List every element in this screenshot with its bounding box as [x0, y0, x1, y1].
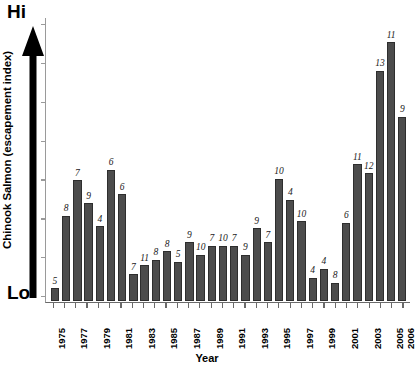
y-axis-title: Chinook Salmon (escapement index)	[0, 0, 18, 300]
bar-slot: 13	[374, 18, 385, 301]
bar	[118, 194, 126, 300]
y-axis-tick	[41, 257, 46, 258]
x-axis-tick	[154, 303, 155, 308]
bar-slot: 4	[285, 18, 296, 301]
x-axis-tick	[290, 303, 291, 308]
x-axis-year-label: 1997	[305, 328, 315, 349]
bar-value-label: 4	[97, 215, 102, 225]
bar	[129, 274, 137, 301]
x-axis-tick	[267, 303, 268, 308]
bar	[96, 226, 104, 300]
x-axis-year-label: 2005	[395, 328, 405, 349]
x-axis-year-label: 1981	[124, 328, 134, 349]
bar-slot: 10	[296, 18, 307, 301]
x-axis-tick	[369, 303, 370, 308]
bar-value-label: 10	[297, 210, 307, 220]
bar-value-label: 10	[218, 234, 228, 244]
bar	[219, 246, 227, 301]
bar-slot: 9	[83, 18, 94, 301]
bar-slot: 9	[240, 18, 251, 301]
bar	[73, 180, 81, 300]
bar	[51, 288, 59, 300]
x-axis-tick	[312, 303, 313, 308]
bar-value-label: 9	[86, 192, 91, 202]
bar-slot: 5	[49, 18, 60, 301]
x-axis-tick	[256, 303, 257, 308]
x-axis-year-label: 1975	[57, 328, 67, 349]
bar	[208, 246, 216, 301]
x-axis-year-label: 1983	[147, 328, 157, 349]
x-axis-year-label: 1999	[327, 328, 337, 349]
bar	[152, 260, 160, 301]
bar	[320, 269, 328, 301]
bar	[353, 164, 361, 300]
bar-value-label: 8	[64, 204, 69, 214]
x-axis-year-label: 1989	[215, 328, 225, 349]
bar-slot: 4	[318, 18, 329, 301]
bar-slot: 9	[184, 18, 195, 301]
bar-value-label: 13	[375, 59, 385, 69]
bar-value-label: 8	[153, 248, 158, 258]
x-axis-year-label: 1985	[169, 328, 179, 349]
bar-value-label: 9	[243, 243, 248, 253]
bar-slot: 4	[94, 18, 105, 301]
x-axis-tick	[64, 303, 65, 308]
x-axis-tick	[278, 303, 279, 308]
bar-value-label: 4	[321, 257, 326, 267]
x-axis-tick	[86, 303, 87, 308]
bar	[185, 242, 193, 300]
x-axis-year-label: 1979	[102, 328, 112, 349]
x-axis-tick	[75, 303, 76, 308]
x-axis-tick	[177, 303, 178, 308]
x-axis-year-label: 1995	[282, 328, 292, 349]
bar-value-label: 7	[75, 169, 80, 179]
x-axis-tick	[346, 303, 347, 308]
x-axis-tick	[380, 303, 381, 308]
bar	[342, 223, 350, 301]
x-axis-tick	[222, 303, 223, 308]
bar-slot: 7	[262, 18, 273, 301]
x-axis-tick	[132, 303, 133, 308]
bar	[62, 216, 70, 301]
bar-slot: 6	[341, 18, 352, 301]
x-axis-tick	[188, 303, 189, 308]
x-axis-title: Year	[0, 352, 414, 364]
bar	[309, 278, 317, 301]
x-axis-year-label: 1991	[237, 328, 247, 349]
bar-series: 5879466711885910710799710410448611121311…	[47, 18, 410, 301]
x-axis-year-label: 1977	[79, 328, 89, 349]
x-axis-tick	[323, 303, 324, 308]
bar-value-label: 5	[53, 277, 58, 287]
bar-value-label: 11	[353, 153, 362, 163]
x-axis-tick	[391, 303, 392, 308]
y-axis-tick	[41, 24, 46, 25]
x-axis-tick	[109, 303, 110, 308]
bar-value-label: 9	[400, 105, 405, 115]
x-axis-tick	[143, 303, 144, 308]
x-axis-tick	[357, 303, 358, 308]
bar-value-label: 7	[265, 231, 270, 241]
bar-slot: 5	[173, 18, 184, 301]
bar-slot: 8	[150, 18, 161, 301]
x-axis-tick	[53, 303, 54, 308]
x-axis-tick	[301, 303, 302, 308]
bar-slot: 8	[61, 18, 72, 301]
x-axis-tick	[199, 303, 200, 308]
bar-value-label: 8	[333, 271, 338, 281]
bar-slot: 10	[195, 18, 206, 301]
x-axis-year-label: 2001	[350, 328, 360, 349]
bar-value-label: 9	[187, 231, 192, 241]
bar	[297, 221, 305, 301]
bar-slot: 7	[229, 18, 240, 301]
bar-slot: 9	[251, 18, 262, 301]
bar-slot: 6	[105, 18, 116, 301]
bar-slot: 7	[128, 18, 139, 301]
bar-slot: 10	[217, 18, 228, 301]
bar-slot: 11	[139, 18, 150, 301]
bar-slot: 7	[72, 18, 83, 301]
x-axis-tick	[335, 303, 336, 308]
y-axis-tick	[41, 179, 46, 180]
bar-slot: 10	[273, 18, 284, 301]
bar-slot: 9	[397, 18, 408, 301]
